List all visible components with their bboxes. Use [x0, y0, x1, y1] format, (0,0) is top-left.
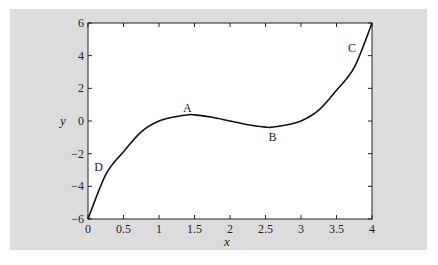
y-tick-label: −4 — [71, 179, 84, 193]
y-axis-label: y — [58, 113, 66, 128]
y-tick-label: 2 — [78, 81, 84, 95]
x-axis-label: x — [223, 234, 230, 249]
y-tick-label: −2 — [71, 147, 84, 161]
x-tick-label: 2.5 — [258, 222, 273, 236]
x-tick-label: 3.5 — [329, 222, 344, 236]
point-label-a: A — [183, 101, 192, 115]
x-tick-label: 4 — [369, 222, 375, 236]
x-tick-label: 1.5 — [187, 222, 202, 236]
x-tick-label: 3 — [298, 222, 304, 236]
x-tick-label: 1 — [156, 222, 162, 236]
y-tick-label: −6 — [71, 212, 84, 226]
line-chart: 00.511.522.533.54−6−4−20246 x y ABCD — [0, 0, 438, 265]
y-tick-label: 4 — [78, 49, 84, 63]
x-tick-label: 0 — [85, 222, 91, 236]
point-label-c: C — [348, 41, 356, 55]
point-label-b: B — [269, 130, 277, 144]
y-tick-label: 6 — [78, 16, 84, 30]
y-tick-label: 0 — [78, 114, 84, 128]
x-tick-label: 0.5 — [116, 222, 131, 236]
point-label-d: D — [94, 160, 103, 174]
